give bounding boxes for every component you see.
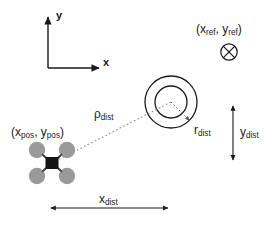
reference-point-label: (xref, yref) [196, 23, 242, 35]
ref-label-close: ) [238, 22, 242, 36]
rho-dist-symbol: ρ [94, 107, 101, 121]
ref-label-sub-y: ref [228, 28, 238, 37]
pos-label-close: ) [60, 125, 64, 139]
pos-label-mid: , y [34, 125, 47, 139]
ref-label-sub-x: ref [206, 28, 216, 37]
rho-dist-subscript: dist [101, 113, 114, 122]
y-dist-label: ydist [240, 126, 259, 138]
pos-label-open: (x [11, 125, 21, 139]
ref-label-open: (x [196, 22, 206, 36]
diagram-canvas: y x (xref, yref) ρdist (xpos, ypos) rdis… [0, 0, 271, 228]
ref-label-mid: , y [216, 22, 229, 36]
circled-x-icon [221, 44, 237, 60]
pos-label-sub-y: pos [47, 131, 60, 140]
r-dist-subscript: dist [198, 129, 211, 138]
x-axis-label: x [103, 57, 109, 68]
y-dist-subscript: dist [246, 131, 259, 140]
x-dist-subscript: dist [105, 198, 118, 207]
rho-dist-label: ρdist [94, 108, 114, 120]
coordinate-axes [48, 17, 99, 68]
pos-label-sub-x: pos [21, 131, 34, 140]
y-axis-label: y [56, 10, 62, 21]
quadrotor-icon [29, 142, 75, 184]
drone-position-label: (xpos, ypos) [11, 126, 64, 138]
r-dist-label: rdist [194, 124, 211, 136]
x-dist-label: xdist [99, 193, 118, 205]
